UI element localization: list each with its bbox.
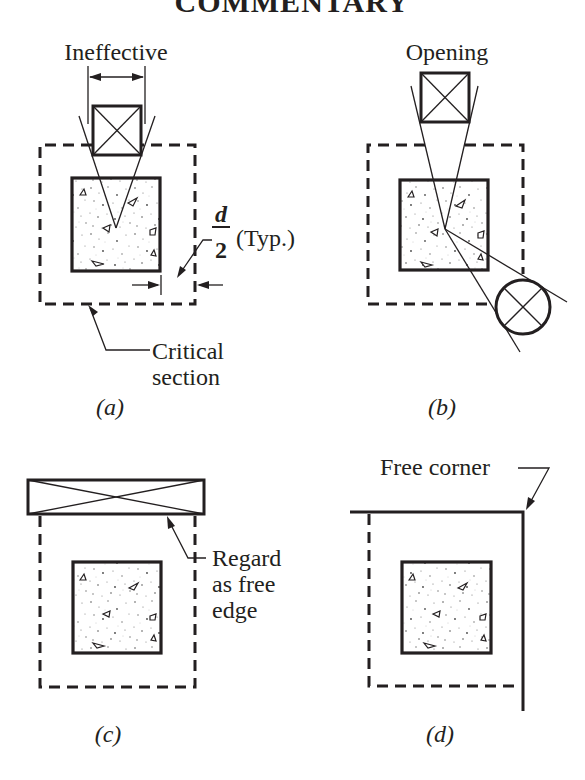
section-label: section [152, 364, 220, 390]
caption-d: (d) [426, 721, 454, 747]
dimension-arrow-left-icon [89, 73, 101, 81]
punching-shear-critical-section-figure: COMMENTARY Ineffective d [0, 0, 585, 780]
opening-label: Opening [406, 39, 489, 65]
as-free-label: as free [212, 571, 275, 597]
free-corner-arrow-icon [526, 497, 535, 510]
d2-arrow-left-icon [148, 281, 160, 289]
regard-label: Regard [212, 545, 281, 571]
ineffective-label: Ineffective [64, 39, 168, 65]
d-over-2-numerator: d [215, 201, 228, 227]
caption-b: (b) [428, 394, 456, 420]
panel-a: Ineffective d 2 (Typ.) [40, 39, 295, 420]
free-edge-arrow-icon [167, 516, 175, 529]
panel-d: Free corner (d) [350, 454, 549, 747]
d-over-2-denominator: 2 [215, 237, 227, 263]
caption-c: (c) [95, 721, 122, 747]
page-heading: COMMENTARY [174, 0, 409, 18]
caption-a: (a) [96, 394, 124, 420]
column [73, 562, 161, 653]
panel-b: Opening (b) [368, 39, 567, 420]
free-edge-leader [170, 523, 206, 558]
free-corner-label: Free corner [380, 454, 490, 480]
typical-label: (Typ.) [236, 225, 295, 251]
free-corner-leader [518, 468, 549, 501]
critical-section-arrow-icon [88, 305, 98, 316]
dimension-arrow-right-icon [132, 73, 144, 81]
panel-c: Regard as free edge (c) [28, 480, 281, 747]
edge-label: edge [212, 597, 257, 623]
critical-label: Critical [152, 338, 224, 364]
d2-arrow-right-icon [197, 281, 209, 289]
column [402, 562, 491, 653]
critical-section-leader [90, 308, 150, 350]
